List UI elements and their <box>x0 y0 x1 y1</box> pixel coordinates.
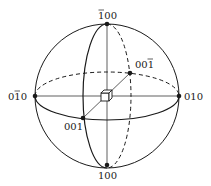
point-front <box>81 116 86 121</box>
point-bottom <box>105 163 110 168</box>
label-left: 010 <box>8 91 27 102</box>
label-top: 100 <box>98 10 117 21</box>
label-back: 001 <box>135 59 154 70</box>
point-right <box>177 94 182 99</box>
label-bottom: 100 <box>98 170 117 181</box>
point-left <box>33 94 38 99</box>
sphere-diagram: 100 100 010 010 001 001 <box>0 0 211 186</box>
label-right: 010 <box>184 91 203 102</box>
label-front: 001 <box>64 121 83 132</box>
point-top <box>105 22 110 27</box>
cube-icon <box>101 90 112 101</box>
point-back <box>128 71 133 76</box>
